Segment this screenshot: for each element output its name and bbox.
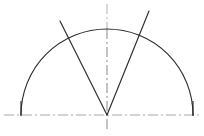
semicircle-angle-diagram bbox=[0, 0, 204, 136]
figure-root bbox=[0, 0, 204, 136]
figure-background bbox=[0, 0, 204, 136]
